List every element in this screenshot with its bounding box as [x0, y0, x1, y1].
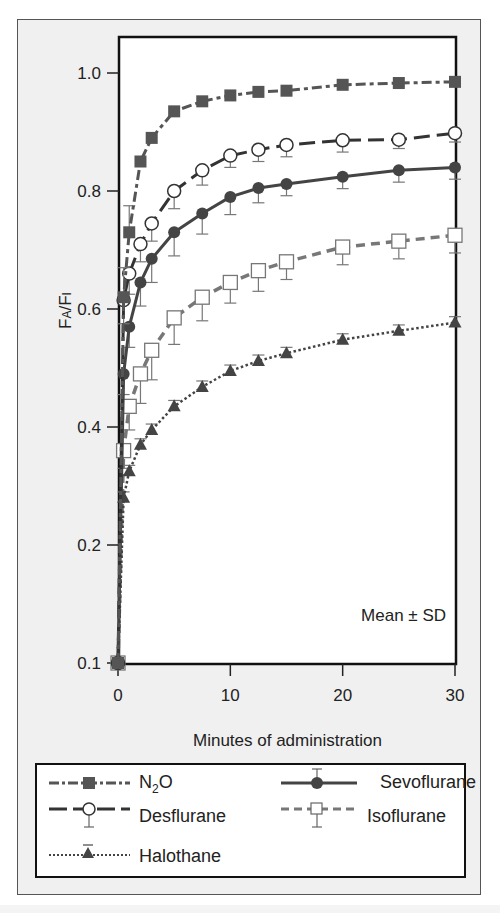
legend-swatch-desflurane [47, 799, 132, 833]
y-tick-label: 0.6 [77, 300, 101, 319]
legend-label-sevoflurane: Sevoflurane [380, 772, 476, 793]
y-axis-label: FA/FI [56, 292, 75, 329]
legend-label-halothane: Halothane [139, 846, 221, 867]
x-tick-label: 20 [333, 686, 352, 705]
legend-swatch-halothane [47, 841, 132, 865]
y-tick-label: 0.2 [77, 536, 101, 555]
legend-swatch-n2o [47, 773, 132, 793]
legend-swatch-isoflurane [279, 799, 359, 833]
legend-swatch-sevoflurane [279, 765, 359, 793]
chart-legend: N2O Sevoflurane Desflurane Isoflurane [35, 763, 466, 878]
y-tick-label: 1.0 [77, 64, 101, 83]
x-tick-label: 10 [221, 686, 240, 705]
y-tick-label: 0.1 [77, 654, 101, 673]
x-tick-label: 30 [446, 686, 465, 705]
legend-label-isoflurane: Isoflurane [367, 806, 446, 827]
x-axis-label: Minutes of administration [193, 731, 382, 750]
legend-label-desflurane: Desflurane [139, 806, 226, 827]
figure-panel: 1.00.80.60.40.20.10102030Minutes of admi… [17, 19, 481, 895]
y-tick-label: 0.4 [77, 418, 101, 437]
y-tick-label: 0.8 [77, 182, 101, 201]
bottom-strip [0, 905, 500, 913]
mean-sd-annotation: Mean ± SD [361, 606, 446, 625]
x-tick-label: 0 [113, 686, 122, 705]
legend-label-n2o: N2O [139, 772, 173, 796]
